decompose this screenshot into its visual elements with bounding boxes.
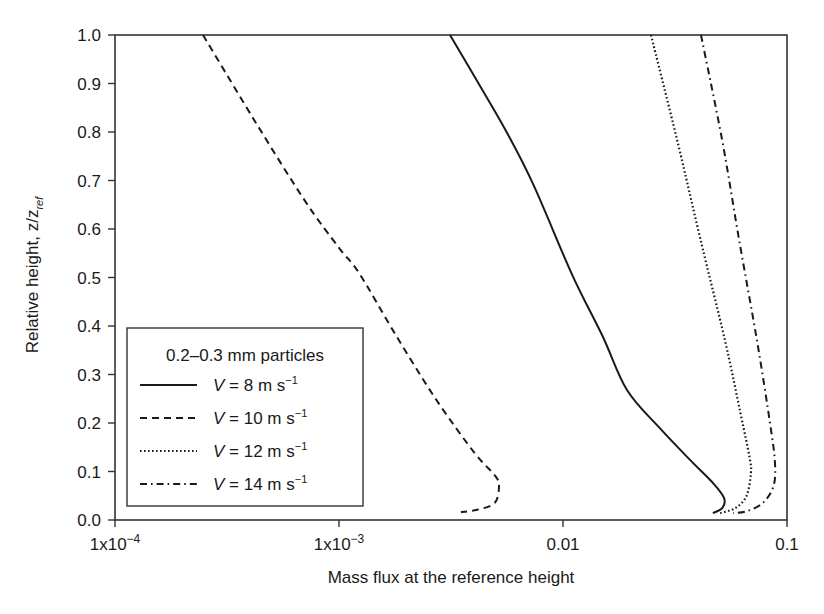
- y-tick-label: 0.8: [77, 123, 101, 142]
- chart-canvas: 0.00.10.20.30.40.50.60.70.80.91.0 1x10−4…: [0, 0, 824, 614]
- x-axis-title: Mass flux at the reference height: [328, 568, 575, 587]
- series-line-dotted: [651, 35, 751, 513]
- x-tick-label: 1x10−3: [314, 532, 365, 554]
- y-axis-title-subscript: ref: [33, 196, 45, 210]
- y-axis-title: Relative height, z/zref: [23, 196, 45, 353]
- x-tick-label: 0.1: [775, 535, 799, 554]
- x-tick-label: 1x10−4: [90, 532, 141, 554]
- y-tick-label: 0.6: [77, 220, 101, 239]
- y-tick-label: 0.4: [77, 317, 101, 336]
- y-tick-label: 1.0: [77, 26, 101, 45]
- y-tick-label: 0.7: [77, 172, 101, 191]
- y-tick-label: 0.2: [77, 414, 101, 433]
- series-line-dashdot: [701, 35, 775, 513]
- legend-label: V = 14 m s−1: [213, 473, 307, 494]
- legend-label: V = 10 m s−1: [213, 407, 307, 428]
- series-line-solid: [450, 35, 725, 513]
- y-tick-label: 0.9: [77, 75, 101, 94]
- x-tick-label: 0.01: [546, 535, 579, 554]
- y-axis-ticks: 0.00.10.20.30.40.50.60.70.80.91.0: [77, 26, 115, 530]
- y-tick-label: 0.3: [77, 366, 101, 385]
- legend-label: V = 12 m s−1: [213, 440, 307, 461]
- legend: 0.2–0.3 mm particles V = 8 m s−1V = 10 m…: [127, 328, 363, 506]
- legend-label: V = 8 m s−1: [213, 374, 298, 395]
- x-axis-ticks: 1x10−41x10−30.010.1: [90, 520, 799, 554]
- y-tick-label: 0.1: [77, 463, 101, 482]
- legend-title: 0.2–0.3 mm particles: [166, 346, 324, 365]
- y-tick-label: 0.0: [77, 511, 101, 530]
- y-tick-label: 0.5: [77, 269, 101, 288]
